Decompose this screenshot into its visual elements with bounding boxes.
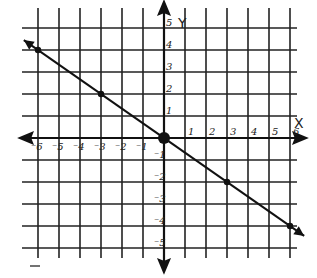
x-tick-label: ⁻4	[73, 141, 85, 152]
data-point	[224, 179, 230, 185]
data-point	[287, 223, 293, 229]
y-tick-label: 2	[165, 83, 172, 94]
y-tick-label: ⁻3	[154, 193, 166, 204]
y-axis-label: Y	[177, 15, 187, 31]
y-tick-label: 3	[166, 61, 172, 72]
line-arrow-left-icon	[24, 40, 35, 50]
data-point	[98, 91, 104, 97]
y-tick-label: 4	[165, 39, 172, 50]
y-tick-label: ⁻4	[154, 215, 166, 226]
x-tick-label: 4	[250, 126, 257, 137]
line-arrow-right-icon	[293, 226, 304, 236]
y-tick-label: 5	[166, 17, 172, 28]
data-point	[35, 47, 41, 53]
x-tick-label: ⁻2	[115, 141, 127, 152]
x-tick-label: 5	[272, 126, 278, 137]
y-axis-up-arrow-icon	[159, 2, 169, 14]
x-tick-label: 2	[208, 126, 215, 137]
x-tick-label: 3	[230, 126, 236, 137]
y-axis-down-arrow-icon	[159, 260, 169, 272]
coordinate-graph: ⁻6⁻5⁻4⁻3⁻2⁻112345654321⁻1⁻2⁻3⁻4⁻5 X Y	[0, 0, 317, 278]
y-tick-label: ⁻5	[154, 237, 166, 248]
y-tick-label: ⁻2	[154, 171, 166, 182]
y-tick-label: ⁻1	[154, 149, 166, 160]
x-tick-label: ⁻5	[52, 141, 64, 152]
x-axis-label: X	[294, 115, 304, 131]
x-tick-label: ⁻3	[94, 141, 106, 152]
y-tick-label: 1	[166, 105, 172, 116]
x-tick-label: ⁻1	[136, 141, 148, 152]
x-tick-label: 1	[188, 126, 194, 137]
data-point	[158, 132, 170, 144]
x-tick-label: ⁻6	[31, 141, 43, 152]
